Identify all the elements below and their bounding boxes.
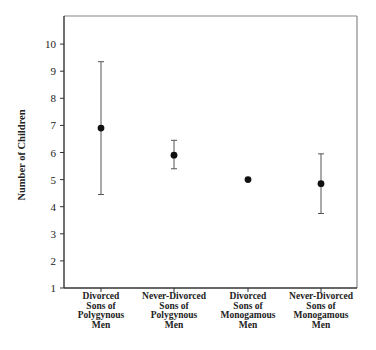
data-point-marker bbox=[245, 176, 252, 183]
data-point-marker bbox=[171, 152, 178, 159]
y-tick-label: 2 bbox=[51, 255, 57, 267]
y-axis-ticks: 12345678910 bbox=[45, 38, 64, 294]
y-tick-label: 3 bbox=[51, 228, 57, 240]
x-category-label: Never-DivorcedSons ofMonogamousMen bbox=[289, 291, 354, 330]
error-bars bbox=[98, 62, 324, 214]
y-tick-label: 8 bbox=[51, 92, 57, 104]
y-tick-label: 6 bbox=[51, 147, 57, 159]
y-tick-label: 10 bbox=[45, 38, 57, 50]
data-points bbox=[98, 125, 325, 187]
y-tick-label: 5 bbox=[51, 174, 57, 186]
point-error-chart: 12345678910 DivorcedSons ofPolygynousMen… bbox=[0, 0, 376, 350]
plot-frame bbox=[64, 16, 357, 288]
x-category-labels: DivorcedSons ofPolygynousMenNever-Divorc… bbox=[78, 291, 354, 330]
y-tick-label: 4 bbox=[51, 201, 57, 213]
y-tick-label: 9 bbox=[51, 65, 57, 77]
data-point-marker bbox=[318, 180, 325, 187]
y-axis-title: Number of Children bbox=[16, 109, 27, 200]
x-category-label: DivorcedSons ofPolygynousMen bbox=[78, 291, 125, 330]
data-point-marker bbox=[98, 125, 105, 132]
x-category-label: DivorcedSons ofMonogamousMen bbox=[221, 291, 276, 330]
x-category-label: Never-DivorcedSons ofPolygynousMen bbox=[142, 291, 207, 330]
y-tick-label: 1 bbox=[51, 282, 57, 294]
chart-container: 12345678910 DivorcedSons ofPolygynousMen… bbox=[0, 0, 376, 350]
y-tick-label: 7 bbox=[51, 119, 57, 131]
